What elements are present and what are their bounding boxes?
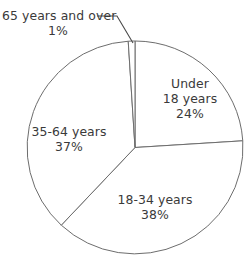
pie-label-65-years-and-over: 65 years and over 1% bbox=[2, 8, 114, 38]
pie-label-35-64-years: 35-64 years 37% bbox=[26, 124, 112, 154]
pie-label-under18-line-2: 18 years bbox=[152, 91, 228, 106]
pie-label-65-line-2: 1% bbox=[2, 23, 114, 38]
pie-label-under-18-years: Under 18 years 24% bbox=[152, 76, 228, 121]
pie-label-65-line-1: 65 years and over bbox=[2, 8, 114, 23]
pie-label-3564-line-2: 37% bbox=[26, 139, 112, 154]
pie-label-3564-line-1: 35-64 years bbox=[26, 124, 112, 139]
pie-label-1834-line-1: 18-34 years bbox=[112, 192, 198, 207]
pie-label-1834-line-2: 38% bbox=[112, 207, 198, 222]
pie-chart: 65 years and over 1% Under 18 years 24% … bbox=[0, 0, 251, 264]
pie-label-under18-line-1: Under bbox=[152, 76, 228, 91]
pie-label-18-34-years: 18-34 years 38% bbox=[112, 192, 198, 222]
pie-label-under18-line-3: 24% bbox=[152, 106, 228, 121]
